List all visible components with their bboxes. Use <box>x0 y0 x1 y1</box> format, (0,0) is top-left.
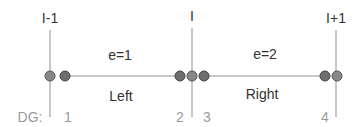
dof-dot-4 <box>320 71 330 81</box>
node-label-i: I <box>190 9 194 23</box>
dg-number-2: 2 <box>176 110 184 124</box>
dg-number-4: 4 <box>321 110 329 124</box>
element-label-e2: e=2 <box>253 47 277 61</box>
dof-dot-3 <box>199 71 209 81</box>
node-label-i-plus-1: I+1 <box>326 11 346 25</box>
dg-prefix: DG: <box>18 110 43 124</box>
side-label-right: Right <box>246 87 279 101</box>
dg-number-1: 1 <box>64 110 72 124</box>
node-dot-i-plus-1 <box>332 71 342 81</box>
side-label-left: Left <box>109 89 132 103</box>
node-dot-i-minus-1 <box>45 71 55 81</box>
element-label-e1: e=1 <box>108 48 132 62</box>
dof-dot-2 <box>175 71 185 81</box>
node-label-i-minus-1: I-1 <box>42 11 58 25</box>
dg-number-3: 3 <box>203 110 211 124</box>
dof-dot-1 <box>60 71 70 81</box>
node-dot-i <box>187 71 197 81</box>
